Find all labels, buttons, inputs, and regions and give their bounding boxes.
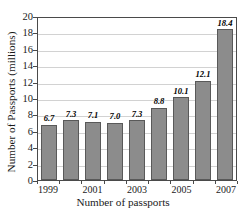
bar-value-label: 7.0: [110, 112, 121, 121]
bar-slot: 7.3: [126, 18, 148, 180]
bar-value-label: 8.8: [154, 97, 165, 106]
bar-value-label: 12.1: [195, 70, 210, 79]
y-axis-tick-label: 12: [14, 77, 33, 88]
y-axis-tick-label: 10: [14, 94, 33, 105]
bar[interactable]: [195, 81, 211, 180]
y-axis-tick-label: 0: [14, 176, 33, 187]
bar-value-label: 18.4: [217, 19, 232, 28]
bar[interactable]: [129, 120, 145, 180]
bar[interactable]: [85, 122, 101, 180]
bar-value-label: 7.3: [132, 110, 143, 119]
y-axis-tick-label: 20: [14, 12, 33, 23]
bar-slot: 12.1: [192, 18, 214, 180]
x-axis-tick-mark: [59, 181, 60, 184]
x-axis-tick-label: 1999: [38, 185, 58, 195]
x-axis-tick-label: 2005: [171, 185, 191, 195]
x-axis-tick-mark: [104, 181, 105, 184]
y-axis-tick-label: 2: [14, 159, 33, 170]
x-axis-tick-mark: [193, 181, 194, 184]
y-axis-tick-label: 8: [14, 110, 33, 121]
bar-slot: 7.0: [104, 18, 126, 180]
bar[interactable]: [63, 120, 79, 180]
bar-slot: 7.1: [82, 18, 104, 180]
x-axis-tick-mark: [148, 181, 149, 184]
x-axis-tick-label: 2007: [216, 185, 236, 195]
bar-chart-figure: Number of Passports (millions) 024681012…: [0, 0, 246, 210]
plot-area: 6.77.37.17.07.38.810.112.118.4: [37, 17, 237, 181]
bar-slot: 18.4: [214, 18, 236, 180]
bar-slot: 8.8: [148, 18, 170, 180]
x-axis-tick-mark: [237, 181, 238, 184]
y-axis-tick-labels: 02468101214161820: [14, 17, 33, 181]
bar[interactable]: [217, 29, 233, 180]
bar[interactable]: [173, 97, 189, 180]
x-axis-title: Number of passports: [0, 196, 246, 208]
bar-slot: 6.7: [38, 18, 60, 180]
bar-slot: 7.3: [60, 18, 82, 180]
bars-layer: 6.77.37.17.07.38.810.112.118.4: [38, 18, 236, 180]
bar[interactable]: [41, 125, 57, 180]
x-axis-tick-label: 2001: [83, 185, 103, 195]
y-axis-tick-label: 14: [14, 61, 33, 72]
y-axis-tick-label: 16: [14, 45, 33, 56]
bar-slot: 10.1: [170, 18, 192, 180]
y-axis-tick-label: 4: [14, 143, 33, 154]
bar[interactable]: [151, 108, 167, 180]
y-axis-tick-label: 6: [14, 127, 33, 138]
y-axis-tick-label: 18: [14, 28, 33, 39]
bar-value-label: 10.1: [173, 87, 188, 96]
x-axis-tick-label: 2003: [127, 185, 147, 195]
bar-value-label: 6.7: [44, 114, 55, 123]
bar-value-label: 7.1: [88, 111, 99, 120]
bar[interactable]: [107, 123, 123, 180]
bar-value-label: 7.3: [66, 110, 77, 119]
